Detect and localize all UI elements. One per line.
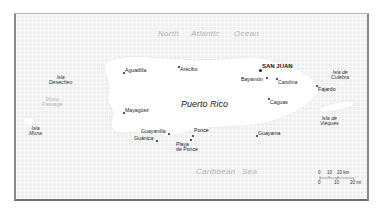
city-marker-guayanilla [168, 133, 170, 135]
water-label-ocean: Ocean [234, 30, 259, 38]
city-label-arecibo: Arecibo [180, 67, 198, 72]
city-label-aguadilla: Aguadilla [125, 68, 146, 73]
city-label-guayama: Guayama [258, 131, 281, 136]
city-label-guanica: Guánica [134, 136, 153, 141]
island-label-vieques: Isla de Vieques [320, 116, 339, 126]
water-label-sea: Sea [242, 168, 257, 176]
city-label-playa-de-ponce: Playa de Ponce [176, 142, 198, 152]
city-label-bayamon: Bayamón [241, 77, 263, 82]
scale-km-10: 10 [327, 171, 332, 176]
water-label-caribbean: Caribbean [196, 168, 236, 176]
city-label-carolina: Carolina [278, 80, 297, 85]
scale-km-0: 0 [318, 171, 321, 176]
city-label-ponce: Ponce [194, 128, 209, 133]
scale-mi-0: 0 [318, 181, 321, 186]
city-marker-ponce [192, 135, 194, 137]
island-label-culebra: Isla de Culebra [331, 70, 349, 80]
country-label: Puerto Rico [181, 100, 228, 109]
water-label-north: North [158, 30, 179, 38]
city-label-guayanilla: Guayanilla [141, 129, 166, 134]
island-label-mona: Isla Mona [29, 126, 42, 136]
city-label-fajardo: Fajardo [318, 87, 336, 92]
culebra-landmass [338, 81, 344, 85]
city-label-mayaguez: Mayagüez [125, 108, 149, 113]
capital-marker [259, 69, 262, 72]
city-marker-guanica [156, 140, 158, 142]
scale-mi-20: 20 mi [350, 181, 361, 186]
city-marker-playa-de-ponce [190, 139, 192, 141]
map-frame: North Atlantic Ocean Caribbean Sea Mona … [14, 13, 369, 201]
water-label-mona-passage: Mona Passage [42, 97, 62, 107]
scale-km-20: 20 km [337, 171, 349, 176]
city-label-caguas: Caguas [270, 100, 288, 105]
city-label-san-juan: SAN JUAN [262, 63, 293, 69]
scale-mi-10: 10 [334, 181, 339, 186]
island-label-desecheo: Isla Desecheo [49, 75, 72, 85]
vieques-landmass [319, 101, 354, 112]
city-marker-bayamon [266, 77, 268, 79]
water-label-atlantic: Atlantic [191, 30, 220, 38]
